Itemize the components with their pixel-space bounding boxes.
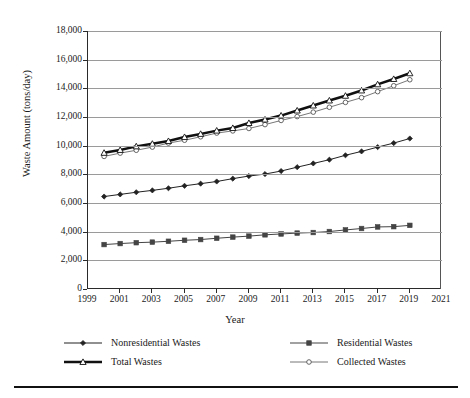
- filled-diamond-icon: [101, 194, 106, 199]
- open-circle-icon: [375, 89, 380, 94]
- x-tick-label: 2015: [326, 295, 362, 305]
- filled-diamond-icon: [230, 176, 235, 181]
- x-tick-mark: [377, 289, 378, 293]
- filled-square-icon: [391, 224, 396, 229]
- filled-square-icon: [198, 237, 203, 242]
- open-circle-icon: [359, 95, 364, 100]
- filled-diamond-icon: [134, 190, 139, 195]
- filled-square-icon: [359, 226, 364, 231]
- filled-diamond-icon: [166, 186, 171, 191]
- filled-square-icon: [150, 240, 155, 245]
- gridline: [88, 88, 442, 89]
- x-tick-label: 2021: [423, 295, 459, 305]
- open-circle-icon: [343, 100, 348, 105]
- gridline: [88, 232, 442, 233]
- legend-item[interactable]: Collected Wastes: [288, 356, 406, 368]
- x-tick-label: 2017: [359, 295, 395, 305]
- legend-marker-filled-square-icon: [288, 337, 330, 349]
- x-tick-mark: [184, 289, 185, 293]
- x-tick-label: 2019: [391, 295, 427, 305]
- filled-diamond-icon: [118, 192, 123, 197]
- figure-container: Waste Amount (tons/day) 02,0004,0006,000…: [0, 0, 470, 398]
- x-tick-label: 1999: [69, 295, 105, 305]
- open-circle-icon: [247, 126, 252, 131]
- x-tick-mark: [280, 289, 281, 293]
- legend-label: Residential Wastes: [337, 338, 412, 348]
- gridline: [88, 60, 442, 61]
- gridline: [88, 146, 442, 147]
- x-tick-mark: [312, 289, 313, 293]
- open-circle-icon: [408, 77, 413, 82]
- gridline: [88, 31, 442, 32]
- gridline: [88, 203, 442, 204]
- filled-diamond-icon: [278, 168, 283, 173]
- filled-square-icon: [408, 223, 413, 228]
- legend-label: Nonresidential Wastes: [111, 338, 200, 348]
- legend-marker-open-triangle-icon: [62, 356, 104, 368]
- legend-label: Total Wastes: [111, 357, 162, 367]
- x-tick-label: 2011: [262, 295, 298, 305]
- bottom-divider-rule: [14, 386, 458, 388]
- filled-diamond-icon: [311, 161, 316, 166]
- filled-square-icon: [134, 240, 139, 245]
- filled-square-icon: [307, 341, 312, 346]
- filled-diamond-icon: [150, 188, 155, 193]
- filled-diamond-icon: [182, 183, 187, 188]
- legend-label: Collected Wastes: [337, 357, 406, 367]
- plot-right-border: [440, 31, 441, 289]
- filled-square-icon: [247, 234, 252, 239]
- gridline: [88, 117, 442, 118]
- open-circle-icon: [311, 110, 316, 115]
- series-total-wastes: [101, 70, 413, 155]
- filled-square-icon: [182, 238, 187, 243]
- legend-marker-filled-diamond-icon: [62, 337, 104, 349]
- filled-square-icon: [231, 235, 236, 240]
- series-residential-wastes: [102, 223, 412, 247]
- filled-square-icon: [102, 242, 107, 247]
- x-tick-label: 2005: [166, 295, 202, 305]
- open-circle-icon: [279, 118, 284, 123]
- x-tick-label: 2007: [198, 295, 234, 305]
- filled-square-icon: [118, 241, 123, 246]
- chart-legend: Nonresidential WastesResidential WastesT…: [0, 337, 470, 375]
- filled-diamond-icon: [343, 153, 348, 158]
- series-line: [104, 73, 410, 153]
- plot-area: [87, 31, 441, 289]
- filled-square-icon: [263, 233, 268, 238]
- open-circle-icon: [327, 105, 332, 110]
- x-tick-label: 2003: [133, 295, 169, 305]
- gridline: [88, 260, 442, 261]
- filled-diamond-icon: [359, 149, 364, 154]
- open-circle-icon: [263, 122, 268, 127]
- filled-diamond-icon: [407, 136, 412, 141]
- filled-square-icon: [214, 236, 219, 241]
- gridline: [88, 174, 442, 175]
- legend-item[interactable]: Residential Wastes: [288, 337, 412, 349]
- x-axis-title: Year: [0, 314, 470, 325]
- legend-marker-open-circle-icon: [288, 356, 330, 368]
- x-tick-label: 2001: [101, 295, 137, 305]
- filled-diamond-icon: [80, 340, 85, 345]
- x-tick-mark: [248, 289, 249, 293]
- x-tick-mark: [409, 289, 410, 293]
- filled-square-icon: [166, 239, 171, 244]
- x-tick-mark: [216, 289, 217, 293]
- filled-diamond-icon: [295, 165, 300, 170]
- series-canvas: [88, 31, 442, 289]
- x-tick-label: 2013: [294, 295, 330, 305]
- filled-diamond-icon: [214, 179, 219, 184]
- filled-diamond-icon: [198, 181, 203, 186]
- open-circle-icon: [307, 360, 312, 365]
- filled-diamond-icon: [327, 157, 332, 162]
- x-tick-label: 2009: [230, 295, 266, 305]
- legend-item[interactable]: Nonresidential Wastes: [62, 337, 200, 349]
- filled-square-icon: [375, 225, 380, 230]
- x-tick-mark: [119, 289, 120, 293]
- x-tick-mark: [151, 289, 152, 293]
- legend-item[interactable]: Total Wastes: [62, 356, 162, 368]
- x-tick-mark: [344, 289, 345, 293]
